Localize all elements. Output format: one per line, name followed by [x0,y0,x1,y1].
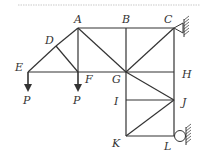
member-df [56,46,78,72]
member-kj [126,100,174,136]
node-label-d: D [44,34,54,47]
pin-support-c [174,16,189,37]
member-ag [78,28,126,72]
node-label-a: A [73,13,82,26]
member-ed [28,46,56,72]
node-label-c: C [164,13,173,26]
member-da [56,28,78,46]
member-gj [126,72,174,100]
node-label-b: B [121,13,130,26]
member-gc [126,28,174,72]
node-label-e: E [14,61,23,74]
node-label-j: J [180,96,187,109]
truss-diagram: A B C D E F G H I J K L P P [0,0,202,166]
node-label-k: K [111,137,121,150]
node-label-g: G [112,73,121,86]
load-label-f: P [72,94,81,107]
load-label-e: P [22,94,31,107]
node-label-l: L [163,140,171,153]
load-arrow-f [74,72,82,92]
load-arrow-e [24,72,32,92]
node-label-f: F [84,73,93,86]
roller-support-l [175,124,192,145]
node-label-i: I [113,95,119,108]
node-label-h: H [181,68,192,81]
